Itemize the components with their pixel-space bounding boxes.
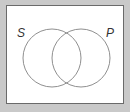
- set-s-label: S: [17, 26, 25, 40]
- venn-diagram: S P: [0, 0, 130, 112]
- set-p-label: P: [106, 26, 114, 40]
